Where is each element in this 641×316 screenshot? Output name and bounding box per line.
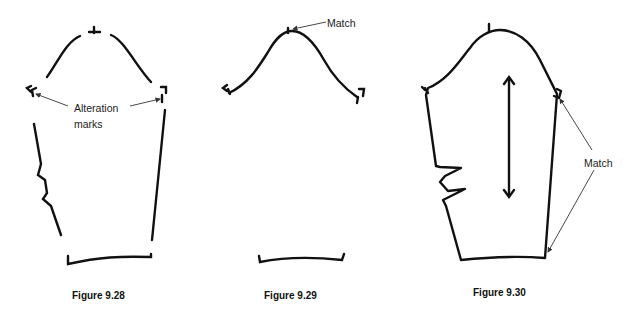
alteration-mark-right (357, 89, 364, 103)
figure-caption-9-30: Figure 9.30 (473, 287, 526, 298)
alteration-mark-left (27, 86, 36, 96)
wrist-line (68, 254, 151, 264)
figure-9-28 (27, 27, 166, 264)
match-label: Match (327, 17, 356, 29)
alteration-mark-left (223, 85, 230, 94)
match-notch (89, 27, 100, 33)
sleeve-pattern-diagrams: Alteration marks Figure 9.28 Match Figur… (0, 0, 641, 316)
figure-caption-9-29: Figure 9.29 (264, 290, 317, 301)
figure-caption-9-28: Figure 9.28 (72, 290, 125, 301)
grainline-arrow (504, 77, 514, 197)
sleeve-cap-curve (229, 31, 357, 97)
sleeve-cap-left-curve (47, 36, 80, 77)
underarm-seam-right (152, 110, 165, 240)
match-label: Match (584, 157, 613, 169)
alteration-marks-label-line2: marks (74, 118, 103, 130)
sleeve-cap-right-curve (111, 35, 151, 82)
alteration-mark-right (161, 87, 166, 102)
figure-9-29 (223, 28, 364, 262)
wrist-line (259, 254, 344, 262)
underarm-seam-left (34, 124, 61, 235)
alteration-marks-label-line1: Alteration (74, 102, 119, 114)
sleeve-outline (426, 30, 557, 260)
match-arrow (293, 22, 326, 29)
figure-9-30 (422, 24, 561, 260)
